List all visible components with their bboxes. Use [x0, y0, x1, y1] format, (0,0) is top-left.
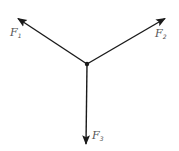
- force-f2-arrow: [87, 19, 165, 65]
- force-f3-arrow: [86, 64, 87, 144]
- force-f2-label: F2: [154, 27, 167, 40]
- junction-point: [85, 62, 89, 66]
- force-f3-label: F3: [91, 129, 104, 142]
- force-diagram: F1 F2 F3: [0, 0, 179, 151]
- force-f1-arrow: [18, 19, 87, 65]
- force-f1-label: F1: [9, 26, 21, 39]
